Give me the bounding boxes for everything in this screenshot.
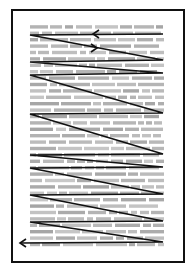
text-word (141, 128, 163, 131)
text-word (51, 44, 68, 47)
text-word (30, 44, 48, 47)
text-word (106, 230, 126, 233)
text-word (50, 83, 57, 86)
text-word (132, 76, 152, 79)
text-word (49, 140, 66, 143)
text-word (87, 217, 93, 220)
text-word (154, 76, 164, 79)
text-word (80, 51, 86, 54)
text-word (93, 102, 101, 105)
text-word (61, 102, 91, 105)
text-word (120, 25, 132, 28)
text-word (137, 243, 155, 246)
text-word (90, 121, 110, 124)
text-word (116, 108, 141, 111)
text-word (77, 236, 97, 239)
text-word (84, 147, 109, 150)
text-word (30, 224, 37, 227)
text-word (114, 217, 142, 220)
text-word (110, 134, 129, 137)
text-word (138, 96, 152, 99)
text-word (126, 160, 142, 163)
text-word (158, 243, 164, 246)
text-word (30, 185, 55, 188)
text-word (125, 128, 139, 131)
text-word (140, 211, 149, 214)
text-word (30, 121, 51, 124)
text-word (158, 102, 164, 105)
text-word (128, 230, 137, 233)
text-word (149, 198, 164, 201)
text-word (129, 204, 158, 207)
text-word (73, 121, 87, 124)
text-word (144, 115, 159, 118)
text-word (30, 25, 48, 28)
text-word (58, 185, 81, 188)
text-word (30, 38, 38, 41)
text-word (76, 25, 92, 28)
text-word (97, 57, 105, 60)
text-word (95, 172, 126, 175)
text-word (151, 211, 164, 214)
text-word (104, 108, 113, 111)
text-word (134, 44, 159, 47)
text-word (30, 160, 40, 163)
text-word (38, 51, 49, 54)
text-word (92, 83, 115, 86)
text-word (74, 96, 103, 99)
text-word (140, 230, 164, 233)
text-word (95, 140, 113, 143)
text-word (97, 64, 122, 67)
text-word (43, 57, 66, 60)
text-word (130, 115, 142, 118)
text-word (30, 89, 46, 92)
text-lines (30, 25, 164, 246)
text-word (55, 230, 80, 233)
text-word (95, 25, 118, 28)
text-word (56, 128, 66, 131)
text-word (52, 51, 77, 54)
text-word (113, 121, 136, 124)
text-word (130, 96, 136, 99)
text-word (94, 89, 121, 92)
text-word (153, 134, 161, 137)
text-word (138, 83, 164, 86)
text-word (96, 217, 111, 220)
text-word (156, 25, 163, 28)
text-word (94, 38, 116, 41)
text-word (125, 64, 149, 67)
text-word (43, 160, 64, 163)
text-word (70, 38, 91, 41)
text-word (100, 236, 113, 239)
text-word (112, 76, 129, 79)
text-word (62, 224, 91, 227)
text-word (50, 25, 62, 28)
text-word (88, 211, 106, 214)
text-word (49, 76, 75, 79)
text-word (42, 115, 67, 118)
text-word (154, 121, 162, 124)
text-word (30, 236, 53, 239)
text-word (99, 115, 128, 118)
text-word (137, 38, 153, 41)
text-word (30, 83, 47, 86)
text-word (76, 70, 105, 73)
text-word (121, 198, 146, 201)
text-word (30, 102, 59, 105)
text-word (56, 204, 64, 207)
text-word (129, 243, 135, 246)
text-word (83, 185, 109, 188)
text-word (30, 128, 53, 131)
text-word (30, 230, 53, 233)
text-word (30, 51, 36, 54)
text-word (30, 57, 40, 60)
text-word (144, 160, 153, 163)
text-word (156, 160, 164, 163)
text-word (103, 128, 123, 131)
text-word (69, 115, 97, 118)
text-word (30, 140, 46, 143)
text-word (130, 140, 147, 143)
text-word (142, 185, 154, 188)
text-word (145, 102, 155, 105)
text-word (149, 140, 164, 143)
